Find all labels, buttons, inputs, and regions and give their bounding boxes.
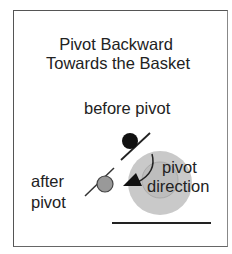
before-player-icon [122,133,138,149]
pivot-diagram [0,0,232,254]
after-label-1: after [31,172,64,191]
after-player-icon [97,176,113,192]
after-label-2: pivot [31,193,66,212]
direction-label-2: direction [147,177,209,196]
direction-label-1: pivot [162,158,197,177]
